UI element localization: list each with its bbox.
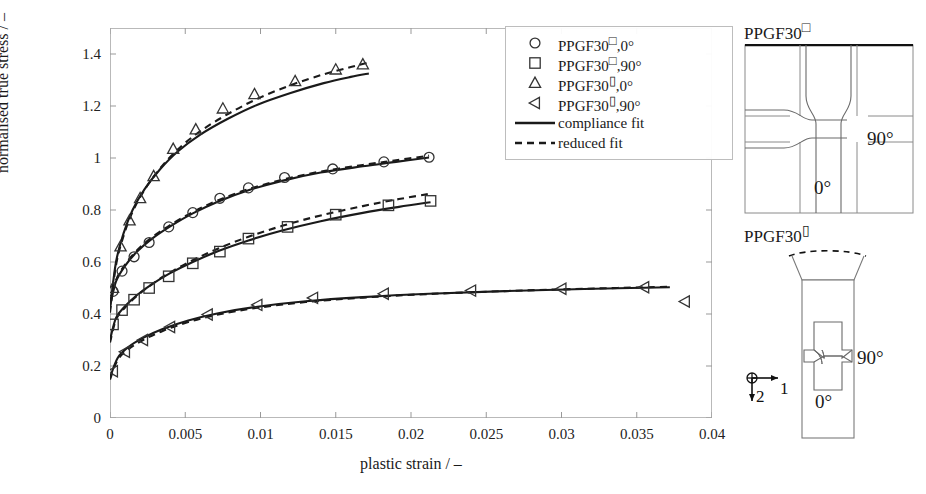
figure-root: normalised true stress / – 00.20.40.60.8… [0, 0, 926, 494]
x-tick-label: 0.04 [699, 426, 725, 443]
legend-label: PPGF30▯,90° [558, 92, 641, 115]
specimen-strip-title: PPGF30▯ [744, 222, 810, 247]
specimen-glyph: ▯ [802, 223, 810, 238]
coordinate-axes-icon: 1 2 [742, 368, 806, 420]
specimen-plate-diagram: 90° 0° [744, 44, 914, 214]
specimen-plate-title: PPGF30□ [744, 20, 810, 44]
y-tick-label: 0.8 [45, 202, 101, 219]
data-marker-square [530, 58, 540, 68]
y-tick-label: 0.2 [45, 358, 101, 375]
specimen-plate-svg: 90° 0° [744, 44, 914, 214]
x-tick-label: 0.005 [168, 426, 202, 443]
specimen-strip-label-90: 90° [857, 347, 884, 368]
specimen-plate-label-0: 0° [814, 177, 831, 198]
axis-1-label: 1 [780, 379, 789, 398]
legend-key-left-triangle-icon [512, 94, 558, 112]
legend-key-dashed-line-icon [512, 134, 558, 152]
x-tick-label: 0.03 [548, 426, 574, 443]
data-marker-left-triangle [679, 296, 689, 307]
y-tick-label: 1.4 [45, 46, 101, 63]
x-axis-label: plastic strain / – [110, 455, 712, 473]
compliance-fit-line [110, 202, 431, 340]
x-tick-label: 0.035 [620, 426, 654, 443]
series-1 [110, 194, 436, 343]
compliance-fit-line [110, 157, 429, 306]
y-tick-label: 0.4 [45, 306, 101, 323]
data-marker-left-triangle [378, 288, 388, 299]
legend-item: PPGF30□,90° [512, 53, 724, 73]
coordinate-axes-indicator: 1 2 [742, 368, 806, 420]
x-tick-label: 0.01 [247, 426, 273, 443]
data-marker-triangle [529, 77, 540, 87]
x-tick-label: 0.015 [319, 426, 353, 443]
legend-label: compliance fit [558, 114, 644, 132]
data-marker-square [425, 196, 435, 206]
reduced-fit-line [110, 194, 431, 343]
y-tick-label: 1 [45, 150, 101, 167]
compliance-fit-line [110, 287, 670, 377]
y-tick-label: 0 [45, 410, 101, 427]
reduced-fit-line [110, 287, 670, 380]
reduced-fit-line [110, 62, 369, 312]
legend-key-circle-icon [512, 34, 558, 52]
specimen-glyph: □ [609, 33, 617, 48]
data-marker-left-triangle [529, 97, 539, 108]
x-tick-label: 0 [106, 426, 114, 443]
y-tick-label: 1.2 [45, 98, 101, 115]
specimen-plate-label-90: 90° [867, 128, 894, 149]
data-marker-triangle [217, 103, 228, 113]
axis-2-label: 2 [756, 387, 765, 406]
x-tick-label: 0.02 [398, 426, 424, 443]
legend-item: PPGF30▯,0° [512, 73, 724, 93]
legend-label: reduced fit [558, 134, 623, 152]
legend-key-square-icon [512, 54, 558, 72]
legend-key-solid-line-icon [512, 114, 558, 132]
legend-key-triangle-icon [512, 74, 558, 92]
series-2 [110, 59, 369, 313]
legend-item: reduced fit [512, 133, 724, 153]
legend-item: compliance fit [512, 113, 724, 133]
data-marker-circle [530, 38, 540, 48]
specimen-glyph: ▯ [609, 93, 616, 108]
legend-item: PPGF30□,0° [512, 33, 724, 53]
specimen-glyph: □ [609, 53, 617, 68]
specimen-strip-label-0: 0° [815, 391, 832, 412]
y-axis-label: normalised true stress / – [0, 0, 12, 223]
legend-item: PPGF30▯,90° [512, 93, 724, 113]
chart-legend: PPGF30□,0°PPGF30□,90°PPGF30▯,0°PPGF30▯,9… [505, 26, 733, 160]
y-tick-label: 0.6 [45, 254, 101, 271]
x-tick-label: 0.025 [469, 426, 503, 443]
specimen-glyph: □ [802, 20, 810, 35]
data-marker-left-triangle [465, 285, 475, 296]
specimen-glyph: ▯ [609, 73, 616, 88]
series-3 [110, 282, 689, 380]
